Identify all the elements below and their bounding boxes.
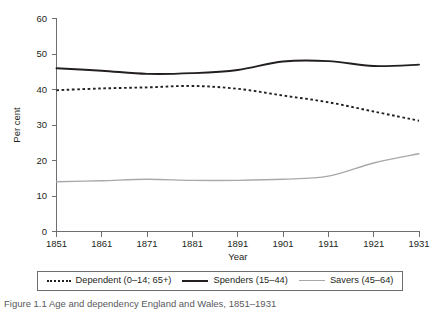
legend-label-savers: Savers (45–64) bbox=[330, 276, 394, 285]
x-ticks bbox=[57, 232, 420, 237]
y-tick-label: 30 bbox=[36, 119, 47, 130]
x-tick-label: 1851 bbox=[46, 238, 67, 249]
series-line-dependent bbox=[57, 86, 420, 121]
x-tick-label: 1921 bbox=[363, 238, 384, 249]
legend-label-dependent: Dependent (0–14; 65+) bbox=[76, 276, 172, 285]
x-tick-label: 1891 bbox=[227, 238, 248, 249]
y-tick-labels: 0 10 20 30 40 50 60 bbox=[36, 13, 47, 237]
y-tick-label: 10 bbox=[36, 190, 47, 201]
y-tick-label: 60 bbox=[36, 13, 47, 24]
chart-legend: Dependent (0–14; 65+) Spenders (15–44) S… bbox=[37, 271, 403, 291]
solid-line-swatch-icon bbox=[182, 280, 208, 282]
x-axis: 1851 1861 1871 1881 1891 1901 1911 1921 … bbox=[46, 232, 430, 263]
x-tick-label: 1871 bbox=[137, 238, 158, 249]
y-tick-label: 20 bbox=[36, 155, 47, 166]
y-axis: 0 10 20 30 40 50 60 Per cent bbox=[11, 13, 57, 237]
y-tick-label: 50 bbox=[36, 48, 47, 59]
series-lines bbox=[57, 60, 420, 181]
x-tick-labels: 1851 1861 1871 1881 1891 1901 1911 1921 … bbox=[46, 238, 430, 249]
y-ticks bbox=[52, 19, 57, 232]
line-chart: 0 10 20 30 40 50 60 Per cent bbox=[0, 0, 440, 262]
x-tick-label: 1881 bbox=[182, 238, 203, 249]
figure-caption: Figure 1.1 Age and dependency England an… bbox=[4, 297, 436, 310]
series-line-savers bbox=[57, 154, 420, 182]
x-axis-title: Year bbox=[228, 251, 247, 262]
y-tick-label: 0 bbox=[42, 226, 47, 237]
light-line-swatch-icon bbox=[299, 280, 325, 281]
y-tick-label: 40 bbox=[36, 84, 47, 95]
x-tick-label: 1931 bbox=[408, 238, 429, 249]
x-tick-label: 1911 bbox=[318, 238, 338, 249]
figure-container: 0 10 20 30 40 50 60 Per cent bbox=[0, 0, 440, 311]
plot-area: 0 10 20 30 40 50 60 Per cent bbox=[0, 0, 440, 262]
legend-label-spenders: Spenders (15–44) bbox=[213, 276, 287, 285]
legend-item-savers: Savers (45–64) bbox=[299, 276, 394, 285]
legend-item-spenders: Spenders (15–44) bbox=[182, 276, 287, 285]
x-tick-label: 1901 bbox=[273, 238, 294, 249]
legend-item-dependent: Dependent (0–14; 65+) bbox=[47, 276, 172, 285]
y-axis-title: Per cent bbox=[11, 107, 22, 143]
dashed-line-swatch-icon bbox=[47, 280, 71, 282]
series-line-spenders bbox=[57, 60, 420, 74]
x-tick-label: 1861 bbox=[91, 238, 112, 249]
